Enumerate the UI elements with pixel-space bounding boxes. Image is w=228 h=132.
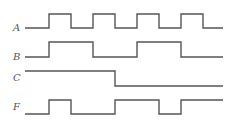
waveform-f xyxy=(25,100,223,114)
signal-label-b: B xyxy=(12,51,20,62)
signal-label-a: A xyxy=(12,22,20,33)
signal-c: C xyxy=(13,71,223,86)
signal-f: F xyxy=(12,100,223,114)
waveform-a xyxy=(25,14,223,28)
waveform-b xyxy=(25,42,223,57)
timing-diagram: A B C F xyxy=(0,0,228,132)
signal-b: B xyxy=(12,42,223,62)
signal-label-f: F xyxy=(12,101,21,112)
signal-label-c: C xyxy=(13,72,21,83)
signal-a: A xyxy=(12,14,223,33)
waveform-c xyxy=(25,71,223,86)
